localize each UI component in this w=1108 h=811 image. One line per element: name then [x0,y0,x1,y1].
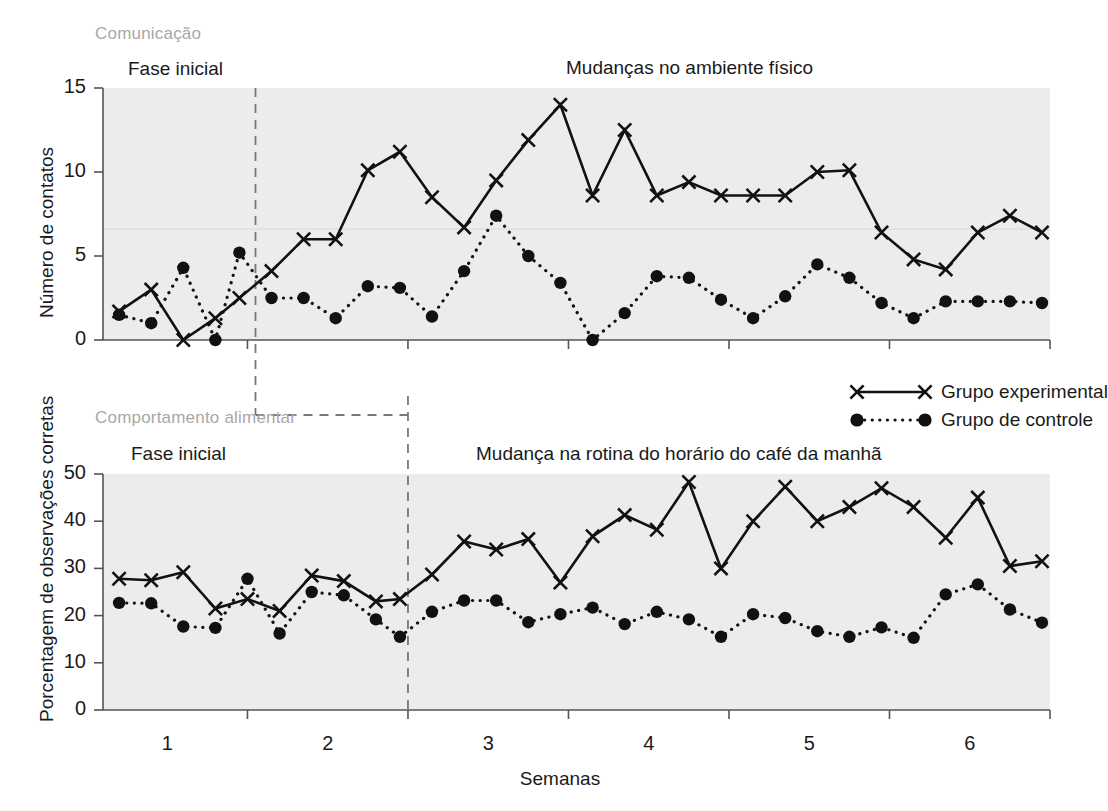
data-point-control [747,312,759,324]
data-point-control [779,290,791,302]
data-point-control [113,597,125,609]
data-point-control [297,292,309,304]
data-point-control [586,334,598,346]
data-point-control [940,588,952,600]
data-point-control [145,597,157,609]
x-tick-label-6: 6 [940,732,1000,755]
data-point-control [940,295,952,307]
data-point-control [426,606,438,618]
data-point-control [265,292,277,304]
data-point-control [458,265,470,277]
plot-background [103,474,1050,710]
data-point-control [1036,297,1048,309]
y-tick-label-15: 15 [28,75,86,98]
data-point-control [490,594,502,606]
data-point-control [875,297,887,309]
x-tick-label-4: 4 [619,732,679,755]
data-point-control [554,608,566,620]
data-point-control [522,250,534,262]
data-point-control [811,258,823,270]
data-point-control [241,573,253,585]
data-point-control [522,616,534,628]
data-point-control [715,294,727,306]
x-tick-label-1: 1 [137,732,197,755]
data-point-control [715,631,727,643]
panel-tag-comunicacao: Comunicação [95,24,201,44]
x-tick-label-5: 5 [779,732,839,755]
data-point-control [113,309,125,321]
data-point-control [554,277,566,289]
data-point-control [972,578,984,590]
legend-label-experimental: Grupo experimental [941,381,1108,403]
panel-tag-comportamento: Comportamento alimentar [95,408,296,428]
data-point-control [843,631,855,643]
data-point-control [209,622,221,634]
data-point-control [1004,295,1016,307]
data-point-control [1036,617,1048,629]
data-point-control [273,627,285,639]
data-point-control [651,606,663,618]
data-point-control [907,632,919,644]
data-point-control [619,307,631,319]
intervention-title-bottom: Mudança na rotina do horário do café da … [476,443,882,465]
y-axis-title-bottom: Porcentagem de observações corretas [36,396,58,722]
data-point-control [233,246,245,258]
data-point-control [651,270,663,282]
data-point-control [145,317,157,329]
data-point-control [683,272,695,284]
y-axis-title-top: Número de contatos [36,147,58,318]
intervention-title-top: Mudanças no ambiente físico [566,57,813,79]
panel-comunicacao [94,88,1050,415]
data-point-control [306,586,318,598]
data-point-control [209,334,221,346]
baseline-title-top: Fase inicial [128,58,223,80]
data-point-control [330,312,342,324]
data-point-control [362,280,374,292]
data-point-control [394,631,406,643]
data-point-control [586,601,598,613]
data-point-control [619,618,631,630]
data-point-control [370,613,382,625]
x-axis-title: Semanas [480,768,640,790]
legend-marker-dot-icon [918,413,931,426]
baseline-title-bottom: Fase inicial [131,443,226,465]
data-point-control [811,625,823,637]
data-point-control [779,612,791,624]
data-point-control [747,608,759,620]
data-point-control [683,613,695,625]
legend-marker-dot-icon [850,413,863,426]
data-point-control [490,210,502,222]
data-point-control [426,310,438,322]
data-point-control [875,621,887,633]
x-tick-label-2: 2 [298,732,358,755]
data-point-control [843,272,855,284]
data-point-control [177,620,189,632]
data-point-control [907,312,919,324]
x-tick-label-3: 3 [458,732,518,755]
y-tick-label-0: 0 [28,327,86,350]
data-point-control [394,282,406,294]
legend-label-control: Grupo de controle [941,409,1093,431]
data-point-control [338,589,350,601]
data-point-control [972,295,984,307]
data-point-control [458,594,470,606]
data-point-control [177,262,189,274]
data-point-control [1004,603,1016,615]
